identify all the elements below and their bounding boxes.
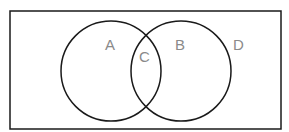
venn-svg: A C B D	[0, 0, 289, 132]
label-c-intersection: C	[139, 48, 150, 65]
universe-rectangle	[10, 11, 281, 129]
label-a: A	[105, 36, 115, 53]
label-d-universe: D	[233, 36, 244, 53]
label-b: B	[175, 36, 185, 53]
venn-diagram: A C B D	[0, 0, 289, 132]
